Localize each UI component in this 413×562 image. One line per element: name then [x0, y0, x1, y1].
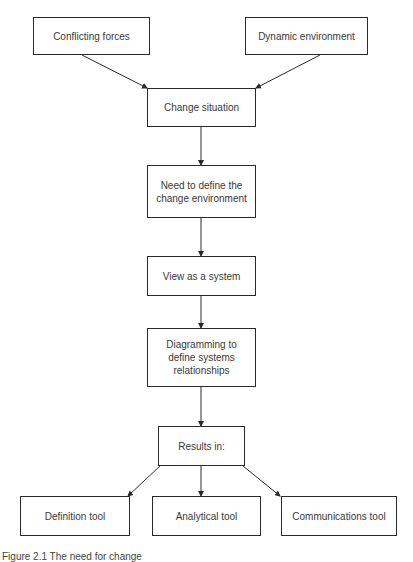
figure-caption: Figure 2.1 The need for change [2, 551, 142, 562]
node-communications-tool: Communications tool [281, 496, 397, 536]
node-conflicting-forces: Conflicting forces [33, 17, 150, 55]
node-diagramming: Diagramming to define systems relationsh… [147, 328, 256, 387]
arrow-results-in-to-definition-tool [128, 466, 160, 496]
node-change-situation: Change situation [147, 88, 256, 127]
arrow-dynamic-environment-to-change-situation [256, 55, 320, 88]
node-need-to-define: Need to define the change environment [147, 165, 256, 218]
node-view-as-system: View as a system [147, 256, 256, 296]
arrow-conflicting-forces-to-change-situation [82, 55, 147, 88]
arrow-results-in-to-communications-tool [243, 466, 280, 496]
node-results-in: Results in: [158, 426, 245, 466]
node-definition-tool: Definition tool [20, 496, 130, 536]
node-analytical-tool: Analytical tool [152, 496, 261, 536]
node-dynamic-environment: Dynamic environment [245, 17, 368, 55]
